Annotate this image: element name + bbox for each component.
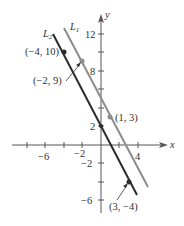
point-1-3	[108, 115, 113, 120]
point-0-2	[99, 124, 103, 128]
line-l2-label: L2	[42, 28, 53, 41]
line-l1	[64, 28, 148, 187]
pointer-arrow-neg2-9	[66, 64, 80, 81]
x-axis-label: x	[169, 139, 175, 150]
point-label-neg2-9: (−2, 9)	[33, 75, 62, 87]
line-l1-label: L1	[69, 21, 79, 34]
y-tick-neg6: −6	[81, 195, 92, 206]
line-graph: x y −6 −2 4 12 8 2 −2 −6 L1 L2 (−4, 10) …	[0, 0, 184, 226]
point-neg4-10	[62, 50, 67, 55]
point-label-neg4-10: (−4, 10)	[25, 46, 59, 58]
y-axis-label: y	[104, 9, 110, 20]
y-tick-neg2: −2	[81, 158, 92, 169]
arrowhead-icon	[123, 183, 128, 188]
y-tick-12: 12	[85, 29, 96, 40]
x-tick-neg6: −6	[38, 151, 49, 162]
x-tick-4: 4	[135, 151, 141, 162]
y-axis	[98, 14, 104, 213]
arrowhead-icon	[76, 62, 81, 67]
point-label-3-neg4: (3, −4)	[109, 201, 138, 213]
point-label-1-3: (1, 3)	[115, 112, 138, 124]
x-axis	[12, 142, 168, 148]
y-tick-2: 2	[90, 121, 95, 132]
y-tick-8: 8	[90, 66, 95, 77]
